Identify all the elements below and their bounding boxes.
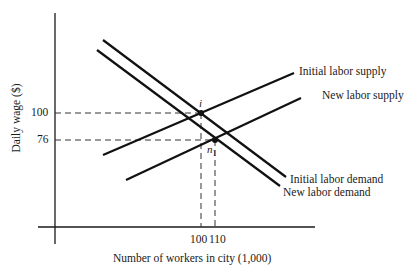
x-tick-100: 100 — [190, 234, 207, 246]
point-label-n1: n1 — [207, 144, 217, 158]
point-label-n-subscript: 1 — [213, 149, 217, 158]
initial-labor-demand-curve — [103, 40, 286, 177]
labor-market-diagram — [0, 0, 413, 270]
y-tick-76: 76 — [37, 134, 49, 146]
initial-labor-demand-label: Initial labor demand — [290, 174, 383, 186]
point-label-i: i — [199, 98, 202, 109]
x-axis-label: Number of workers in city (1,000) — [113, 253, 271, 265]
y-axis-label: Daily wage ($) — [10, 78, 22, 158]
new-labor-demand-label: New labor demand — [283, 187, 371, 199]
x-tick-110: 110 — [209, 234, 226, 246]
initial-labor-supply-label: Initial labor supply — [299, 66, 387, 78]
new-labor-supply-label: New labor supply — [322, 90, 404, 102]
equilibrium-point-i — [198, 110, 204, 116]
y-tick-100: 100 — [31, 107, 48, 119]
